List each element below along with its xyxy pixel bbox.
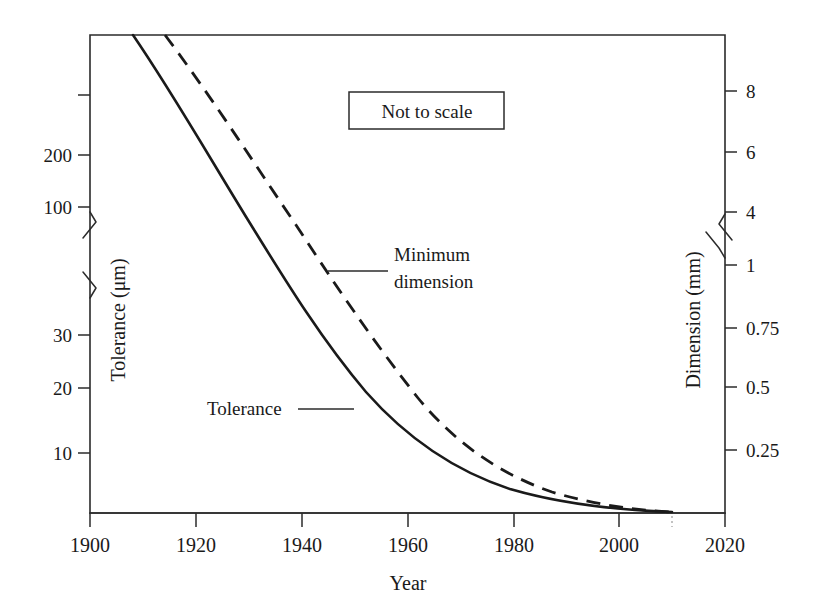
left-label-10: 10 — [53, 443, 72, 464]
right-label-4: 4 — [746, 202, 756, 223]
left-tick-labels: 200 100 30 20 10 — [44, 145, 73, 464]
left-label-100: 100 — [44, 197, 73, 218]
annotation-label-tolerance: Tolerance — [207, 398, 282, 419]
right-tick-labels: 8 6 4 1 0.75 0.5 0.25 — [746, 81, 779, 461]
chart-figure: 200 100 30 20 10 8 6 4 1 0.75 0.5 — [0, 0, 816, 615]
note-not-to-scale: Not to scale — [349, 92, 504, 129]
right-label-1: 1 — [746, 255, 756, 276]
tolerance-dimension-chart: 200 100 30 20 10 8 6 4 1 0.75 0.5 — [0, 0, 816, 615]
right-label-025: 0.25 — [746, 440, 779, 461]
note-text: Not to scale — [382, 101, 473, 122]
x-label-1920: 1920 — [176, 534, 216, 556]
left-label-20: 20 — [53, 378, 72, 399]
x-label-1980: 1980 — [494, 534, 534, 556]
left-label-200: 200 — [44, 145, 73, 166]
x-label-1940: 1940 — [282, 534, 322, 556]
annotation-minimum-dimension: Minimum dimension — [328, 244, 474, 292]
x-axis-ticks — [90, 513, 725, 527]
x-axis-title: Year — [390, 572, 427, 594]
x-label-2020: 2020 — [705, 534, 745, 556]
right-label-075: 0.75 — [746, 318, 779, 339]
x-label-1960: 1960 — [388, 534, 428, 556]
right-label-6: 6 — [746, 142, 756, 163]
x-tick-labels: 1900 1920 1940 1960 1980 2000 2020 — [70, 534, 745, 556]
x-label-2000: 2000 — [599, 534, 639, 556]
right-label-05: 0.5 — [746, 377, 770, 398]
annotation-label-minimum: Minimum — [394, 244, 470, 265]
y-axis-title-left: Tolerance (μm) — [107, 258, 130, 381]
right-break-lower — [706, 232, 725, 258]
annotation-tolerance: Tolerance — [207, 398, 354, 419]
right-axis-break — [706, 214, 732, 258]
left-label-30: 30 — [53, 325, 72, 346]
x-label-1900: 1900 — [70, 534, 110, 556]
annotation-label-dimension: dimension — [394, 271, 474, 292]
y-axis-title-right: Dimension (mm) — [682, 251, 705, 388]
right-label-8: 8 — [746, 81, 756, 102]
right-axis-ticks — [725, 91, 737, 450]
